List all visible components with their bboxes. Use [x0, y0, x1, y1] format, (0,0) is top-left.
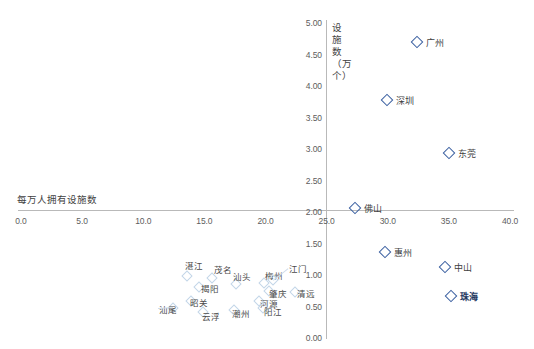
data-label-揭阳: 揭阳: [201, 282, 219, 294]
x-axis-line: [18, 210, 514, 211]
data-label-东莞: 东莞: [458, 147, 476, 160]
x-tick-25.0: 25.0: [319, 216, 335, 226]
x-tick-30.0: 30.0: [380, 216, 396, 226]
data-label-潮州: 潮州: [232, 307, 250, 319]
x-tick-20.0: 20.0: [257, 216, 273, 226]
x-tick-15.0: 15.0: [196, 216, 212, 226]
y-tick-2.00: 2.00: [306, 207, 322, 217]
data-label-云浮: 云浮: [202, 310, 220, 322]
data-point-中山[interactable]: [439, 260, 452, 273]
data-label-深圳: 深圳: [396, 93, 414, 106]
data-label-茂名: 茂名: [214, 263, 232, 275]
y-axis-line: [326, 20, 327, 339]
y-tick-0.50: 0.50: [306, 302, 322, 312]
y-tick-2.50: 2.50: [306, 176, 322, 186]
data-label-阳江: 阳江: [264, 305, 282, 317]
x-tick-10.0: 10.0: [135, 216, 151, 226]
data-label-江门: 江门: [289, 262, 307, 274]
data-point-佛山[interactable]: [348, 201, 361, 214]
data-label-惠州: 惠州: [394, 245, 412, 258]
y-tick-1.00: 1.00: [306, 270, 322, 280]
data-point-东莞[interactable]: [443, 147, 456, 160]
data-label-湛江: 湛江: [185, 259, 203, 271]
data-label-佛山: 佛山: [364, 201, 382, 214]
y-tick-3.00: 3.00: [306, 144, 322, 154]
y-tick-0.00: 0.00: [306, 333, 322, 343]
x-tick-40.0: 40.0: [502, 216, 518, 226]
data-label-清远: 清远: [297, 287, 315, 299]
data-point-广州[interactable]: [411, 36, 424, 49]
data-point-湛江[interactable]: [182, 270, 193, 281]
x-tick-5.0: 5.0: [76, 216, 88, 226]
x-tick-35.0: 35.0: [441, 216, 457, 226]
y-tick-4.00: 4.00: [306, 81, 322, 91]
y-axis-title: 设施数（万个）: [332, 22, 345, 82]
data-point-惠州[interactable]: [379, 245, 392, 258]
data-point-珠海[interactable]: [445, 290, 458, 303]
data-point-深圳[interactable]: [380, 93, 393, 106]
data-label-珠海: 珠海: [460, 290, 478, 303]
y-tick-4.50: 4.50: [306, 50, 322, 60]
scatter-chart: 每万人拥有设施数 设施数（万个） 0.05.010.015.020.025.03…: [0, 0, 534, 349]
data-label-昭关: 昭关: [190, 296, 208, 308]
y-tick-5.00: 5.00: [306, 18, 322, 28]
y-tick-3.50: 3.50: [306, 113, 322, 123]
data-label-汕尾: 汕尾: [159, 303, 177, 315]
plot-area: 每万人拥有设施数 设施数（万个） 0.05.010.015.020.025.03…: [0, 0, 534, 349]
data-label-广州: 广州: [426, 35, 444, 48]
y-tick-1.50: 1.50: [306, 239, 322, 249]
x-axis-title: 每万人拥有设施数: [17, 192, 97, 206]
x-tick-0.0: 0.0: [15, 216, 27, 226]
data-label-中山: 中山: [454, 260, 472, 273]
data-label-汕头: 汕头: [233, 270, 251, 282]
